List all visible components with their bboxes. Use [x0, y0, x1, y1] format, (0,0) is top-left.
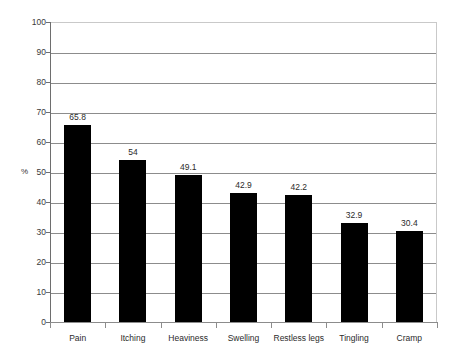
y-axis-tick-label: 50 [24, 168, 46, 177]
y-axis-tick-label: 20 [24, 258, 46, 267]
bar-value-label: 42.9 [219, 181, 269, 190]
gridline [50, 173, 436, 174]
y-axis-tick-label: 80 [24, 78, 46, 87]
x-axis-tick-mark [437, 323, 438, 328]
x-axis-tick-mark [50, 323, 51, 328]
y-axis-tick-label: 90 [24, 48, 46, 57]
x-axis-tick-mark [271, 323, 272, 328]
x-axis-line [50, 322, 438, 323]
y-axis-tick-label: 10 [24, 288, 46, 297]
y-axis-tick-label: 100 [24, 18, 46, 27]
y-axis-tick-label: 30 [24, 228, 46, 237]
y-axis-tick-label: 0 [24, 318, 46, 327]
x-axis-tick-mark [326, 323, 327, 328]
x-axis-tick-mark [161, 323, 162, 328]
y-axis-tick-label: 60 [24, 138, 46, 147]
bar [230, 193, 257, 322]
bar-value-label: 32.9 [329, 211, 379, 220]
gridline [50, 113, 436, 114]
bar [396, 231, 423, 322]
x-axis-tick-mark [216, 323, 217, 328]
x-axis-tick-label: Cramp [369, 334, 449, 343]
bar [64, 125, 91, 322]
bar [119, 160, 146, 322]
bar [175, 175, 202, 322]
bar [341, 223, 368, 322]
bar-value-label: 54 [108, 148, 158, 157]
y-axis-tick-label: 70 [24, 108, 46, 117]
bar [285, 195, 312, 322]
y-axis-tick-label: 40 [24, 198, 46, 207]
x-axis-tick-mark [105, 323, 106, 328]
bar-value-label: 42.2 [274, 183, 324, 192]
gridline [50, 143, 436, 144]
bar-value-label: 65.8 [53, 113, 103, 122]
gridline [50, 53, 436, 54]
bar-value-label: 30.4 [384, 219, 434, 228]
bar-chart: % 0102030405060708090100 65.85449.142.94… [0, 0, 455, 364]
x-axis-tick-mark [382, 323, 383, 328]
y-axis-line [50, 22, 51, 323]
gridline [50, 83, 436, 84]
bar-value-label: 49.1 [163, 163, 213, 172]
